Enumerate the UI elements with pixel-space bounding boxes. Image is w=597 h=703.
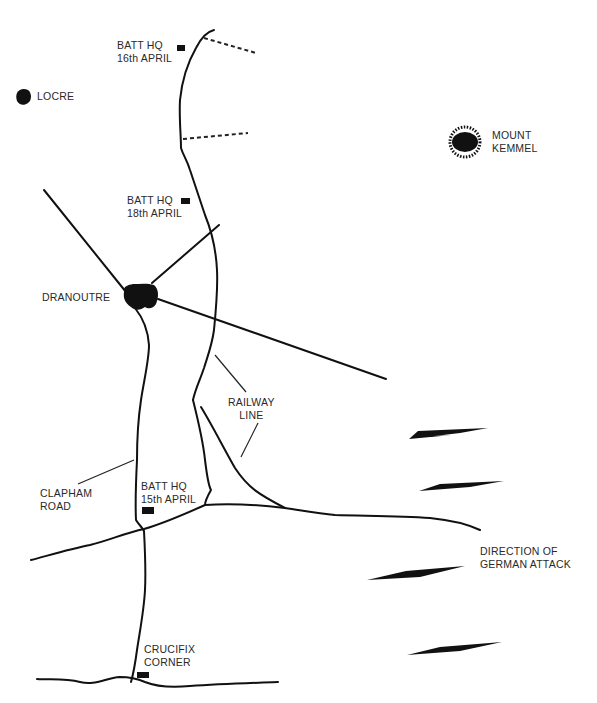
attack-arrow-icon: [407, 642, 502, 655]
clapham-leader: [78, 460, 134, 484]
german-attack-arrows: [367, 428, 504, 655]
hq-15-marker: [142, 507, 154, 514]
dranoutre-label: DRANOUTRE: [42, 291, 110, 304]
road-se-from-dranoutre: [158, 299, 386, 379]
north-road: [180, 30, 218, 400]
front-line-dashed-middle: [183, 133, 248, 139]
railway-leader-upper: [215, 355, 246, 392]
front-line-dashed-top: [204, 38, 256, 53]
map-drawing: [0, 0, 597, 703]
bottom-road: [37, 677, 278, 687]
hq-16-marker: [177, 45, 185, 51]
clapham-road-label: CLAPHAM ROAD: [40, 487, 92, 513]
railway-east-branch: [201, 407, 285, 508]
attack-direction-label: DIRECTION OF GERMAN ATTACK: [480, 545, 571, 571]
road-ne-from-dranoutre: [152, 225, 219, 283]
mount-kemmel-marker: [450, 127, 480, 157]
hq-18-marker: [181, 198, 190, 204]
battle-map: BATT HQ 16th APRIL LOCRE MOUNT KEMMEL BA…: [0, 0, 597, 703]
hq-16-label: BATT HQ 16th APRIL: [117, 39, 172, 65]
road-nw-to-dranoutre: [44, 190, 126, 292]
crucifix-corner-label: CRUCIFIX CORNER: [144, 643, 195, 669]
attack-arrow-icon: [419, 481, 504, 491]
mount-kemmel-label: MOUNT KEMMEL: [492, 129, 538, 155]
east-west-road: [31, 504, 480, 560]
hq-18-label: BATT HQ 18th APRIL: [127, 194, 182, 220]
locre-label: LOCRE: [37, 90, 74, 103]
crucifix-corner-marker: [137, 672, 149, 678]
railway-leader-lower: [241, 423, 258, 457]
dranoutre-town-marker: [124, 284, 158, 310]
railway-label: RAILWAY LINE: [228, 396, 275, 422]
locre-town-marker: [16, 89, 31, 105]
attack-arrow-icon: [409, 428, 488, 439]
attack-arrow-icon: [367, 566, 465, 580]
hq-15-label: BATT HQ 15th APRIL: [141, 480, 196, 506]
